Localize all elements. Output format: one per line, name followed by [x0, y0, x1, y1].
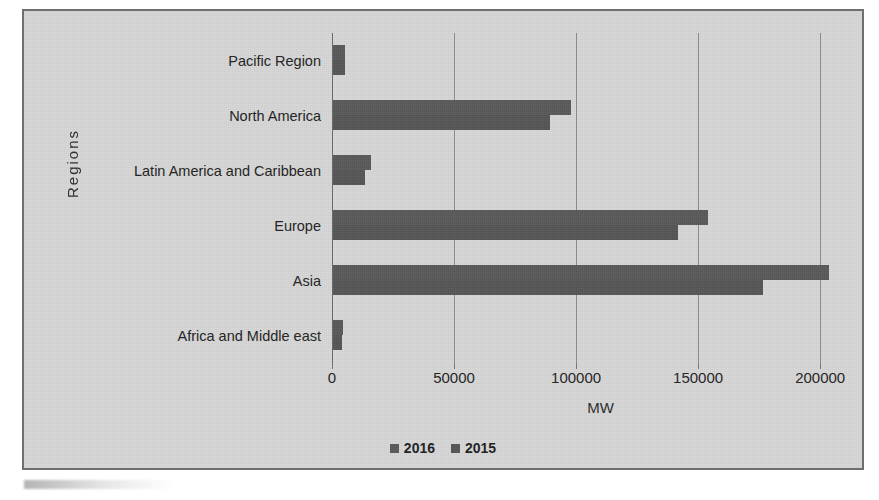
legend-label: 2015: [465, 440, 496, 456]
bar-2015: [333, 170, 365, 185]
category-row: Latin America and Caribbean: [332, 143, 869, 198]
legend-swatch-icon: [451, 444, 460, 453]
category-row: Asia: [332, 253, 869, 308]
category-label: Latin America and Caribbean: [134, 163, 321, 179]
category-label: Asia: [293, 273, 321, 289]
legend-label: 2016: [404, 440, 435, 456]
x-tick-label: 200000: [795, 369, 845, 386]
chart-legend: 20162015: [24, 440, 862, 456]
plot-area: Pacific RegionNorth AmericaLatin America…: [332, 33, 869, 363]
bar-2016: [333, 155, 371, 170]
category-row: North America: [332, 88, 869, 143]
bar-2016: [333, 45, 345, 60]
chart-frame: Regions Pacific RegionNorth AmericaLatin…: [22, 9, 864, 470]
category-row: Europe: [332, 198, 869, 253]
bar-2015: [333, 225, 678, 240]
bar-2016: [333, 320, 343, 335]
bar-2016: [333, 265, 829, 280]
y-axis-title: Regions: [64, 129, 94, 198]
legend-swatch-icon: [390, 444, 399, 453]
x-tick-label: 100000: [551, 369, 601, 386]
x-tick-label: 150000: [673, 369, 723, 386]
category-label: North America: [229, 108, 321, 124]
bar-2016: [333, 210, 708, 225]
x-axis-title: MW: [332, 399, 869, 416]
category-row: Pacific Region: [332, 33, 869, 88]
legend-item[interactable]: 2015: [451, 440, 496, 456]
x-tick-label: 50000: [433, 369, 475, 386]
x-axis-tick-labels: 050000100000150000200000: [332, 369, 869, 391]
category-label: Europe: [274, 218, 321, 234]
category-row: Africa and Middle east: [332, 308, 869, 363]
bar-2015: [333, 115, 550, 130]
x-tick-label: 0: [328, 369, 336, 386]
legend-item[interactable]: 2016: [390, 440, 435, 456]
scan-artifact: [24, 480, 174, 489]
bar-2015: [333, 335, 342, 350]
category-label: Pacific Region: [228, 53, 321, 69]
bar-2015: [333, 60, 345, 75]
bar-2016: [333, 100, 571, 115]
category-label: Africa and Middle east: [178, 328, 321, 344]
bar-2015: [333, 280, 763, 295]
